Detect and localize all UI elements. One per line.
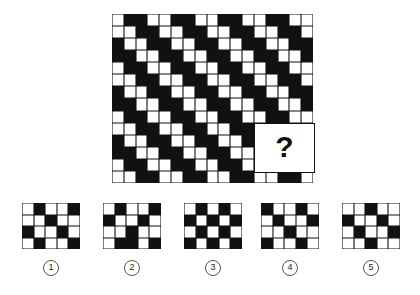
grid-cell xyxy=(254,111,266,123)
grid-cell xyxy=(183,171,195,183)
answer-option-3[interactable]: 3 xyxy=(182,198,244,272)
grid-cell xyxy=(242,98,254,110)
grid-cell xyxy=(159,74,171,86)
option-cell xyxy=(196,215,208,227)
grid-cell xyxy=(266,98,278,110)
answer-option-2[interactable]: 2 xyxy=(101,198,163,272)
grid-cell xyxy=(289,50,301,62)
option-cell xyxy=(354,226,366,238)
grid-cell xyxy=(289,38,301,50)
option-cell xyxy=(68,215,80,227)
option-cell xyxy=(184,226,196,238)
grid-cell xyxy=(171,50,183,62)
option-grid-5[interactable] xyxy=(342,203,400,249)
grid-cell xyxy=(159,62,171,74)
grid-cell xyxy=(112,38,124,50)
option-cell xyxy=(230,203,242,215)
grid-cell xyxy=(230,62,242,74)
option-cell xyxy=(57,203,69,215)
option-cell xyxy=(342,203,354,215)
option-number-1[interactable]: 1 xyxy=(43,260,59,276)
grid-cell xyxy=(124,14,136,26)
grid-cell xyxy=(301,86,313,98)
grid-cell xyxy=(195,38,207,50)
option-number-2[interactable]: 2 xyxy=(124,260,140,276)
grid-cell xyxy=(124,171,136,183)
grid-cell xyxy=(147,74,159,86)
grid-cell xyxy=(230,50,242,62)
option-grid-2[interactable] xyxy=(103,203,161,249)
option-cell xyxy=(149,238,161,250)
grid-cell xyxy=(278,98,290,110)
option-cell xyxy=(377,226,389,238)
option-cell xyxy=(273,238,285,250)
option-cell xyxy=(273,215,285,227)
grid-cell xyxy=(195,171,207,183)
option-cell xyxy=(22,238,34,250)
option-cell xyxy=(296,203,308,215)
option-cell xyxy=(149,203,161,215)
grid-cell xyxy=(207,50,219,62)
grid-cell xyxy=(124,50,136,62)
option-cell xyxy=(115,203,127,215)
grid-cell xyxy=(112,111,124,123)
grid-cell xyxy=(218,38,230,50)
option-number-4[interactable]: 4 xyxy=(282,260,298,276)
grid-cell xyxy=(301,62,313,74)
grid-cell xyxy=(159,86,171,98)
grid-cell xyxy=(171,98,183,110)
answer-option-4[interactable]: 4 xyxy=(259,198,321,272)
grid-cell xyxy=(112,62,124,74)
option-number-3[interactable]: 3 xyxy=(205,260,221,276)
grid-cell xyxy=(183,26,195,38)
option-cell xyxy=(296,215,308,227)
grid-cell xyxy=(147,135,159,147)
grid-cell xyxy=(207,147,219,159)
option-cell xyxy=(261,215,273,227)
grid-cell xyxy=(218,62,230,74)
answer-option-5[interactable]: 5 xyxy=(340,198,402,272)
option-cell xyxy=(388,215,400,227)
option-grid-4[interactable] xyxy=(261,203,319,249)
answer-option-1[interactable]: 1 xyxy=(20,198,82,272)
grid-cell xyxy=(254,26,266,38)
grid-cell xyxy=(230,98,242,110)
option-cell xyxy=(207,215,219,227)
grid-cell xyxy=(124,98,136,110)
grid-cell xyxy=(218,111,230,123)
option-grid-1[interactable] xyxy=(22,203,80,249)
option-cell xyxy=(230,215,242,227)
grid-cell xyxy=(195,147,207,159)
option-label-wrap-1: 1 xyxy=(20,256,82,272)
option-cell xyxy=(296,238,308,250)
grid-cell xyxy=(124,86,136,98)
grid-cell xyxy=(278,74,290,86)
option-cell xyxy=(230,226,242,238)
option-cell xyxy=(207,238,219,250)
grid-cell xyxy=(254,14,266,26)
option-cell xyxy=(377,203,389,215)
grid-cell xyxy=(230,38,242,50)
grid-cell xyxy=(183,86,195,98)
grid-cell xyxy=(124,123,136,135)
option-cell xyxy=(307,238,319,250)
grid-cell xyxy=(242,171,254,183)
option-cell xyxy=(365,203,377,215)
option-cell xyxy=(307,226,319,238)
grid-cell xyxy=(230,14,242,26)
option-cell xyxy=(365,238,377,250)
grid-cell xyxy=(195,135,207,147)
option-cell xyxy=(284,215,296,227)
grid-cell xyxy=(112,86,124,98)
grid-cell xyxy=(159,135,171,147)
grid-cell xyxy=(136,50,148,62)
grid-cell xyxy=(242,86,254,98)
grid-cell xyxy=(124,159,136,171)
option-cell xyxy=(284,226,296,238)
option-number-5[interactable]: 5 xyxy=(363,260,379,276)
option-cell xyxy=(342,215,354,227)
option-grid-3[interactable] xyxy=(184,203,242,249)
option-cell xyxy=(307,215,319,227)
option-label-wrap-5: 5 xyxy=(340,256,402,272)
grid-cell xyxy=(218,74,230,86)
